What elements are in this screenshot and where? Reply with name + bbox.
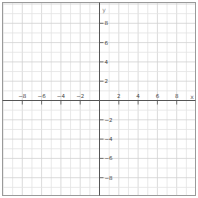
x-tick-label: 6 xyxy=(156,93,160,99)
x-tick-label: 4 xyxy=(136,93,140,99)
coordinate-plane: −8−6−4−22468 8642−2−4−6−8 x y xyxy=(0,0,198,198)
y-tick-label: 6 xyxy=(105,40,109,46)
y-tick-label: −4 xyxy=(105,136,114,142)
x-tick-label: −8 xyxy=(18,93,27,99)
x-tick-label: 8 xyxy=(175,93,179,99)
x-tick-label: −2 xyxy=(76,93,84,99)
y-axis-label: y xyxy=(102,6,106,14)
y-tick-label: −8 xyxy=(105,175,114,181)
y-tick-label: −6 xyxy=(105,155,114,161)
x-tick-label: −6 xyxy=(38,93,47,99)
x-axis-label: x xyxy=(190,93,194,100)
y-tick-label: 4 xyxy=(105,59,109,65)
x-tick-label: −4 xyxy=(57,93,66,99)
y-tick-label: 8 xyxy=(105,20,109,26)
y-tick-label: −2 xyxy=(105,117,113,123)
y-tick-label: 2 xyxy=(105,78,109,84)
x-tick-label: 2 xyxy=(117,93,121,99)
